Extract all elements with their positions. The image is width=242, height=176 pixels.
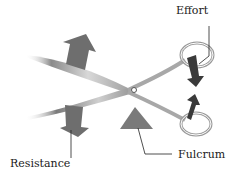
lower-finger-ring	[181, 113, 211, 135]
effort-arrow-up-icon	[187, 94, 200, 120]
effort-arrow-down-icon	[187, 55, 204, 87]
fulcrum-leader-line	[138, 128, 172, 154]
resistance-label: Resistance	[10, 157, 70, 170]
fulcrum-label: Fulcrum	[178, 148, 225, 161]
resistance-arrow-up-icon	[63, 34, 96, 70]
fulcrum-triangle-icon	[120, 107, 153, 129]
effort-label: Effort	[176, 4, 208, 17]
scissors-lever-diagram: Effort Resistance Fulcrum	[0, 0, 242, 176]
pivot-screw	[132, 88, 137, 93]
